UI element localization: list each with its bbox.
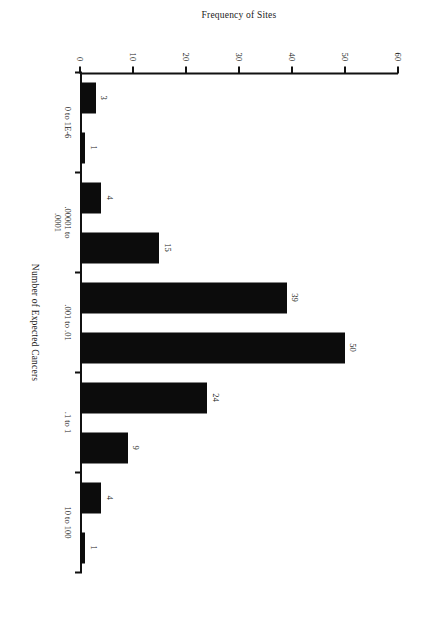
category-label: .1 to 1 bbox=[62, 411, 72, 433]
bar bbox=[80, 132, 85, 163]
value-tick-label: 60 bbox=[394, 52, 403, 61]
bar bbox=[80, 182, 101, 213]
category-label: 10 to 100 bbox=[62, 506, 72, 538]
value-tick-label: 10 bbox=[129, 52, 138, 61]
plot-area: 31415395024941 bbox=[80, 72, 398, 572]
bar-value-label: 1 bbox=[89, 545, 98, 549]
category-label: .001 to .01 bbox=[62, 304, 72, 340]
value-tick-label: 50 bbox=[341, 52, 350, 61]
bar bbox=[80, 332, 345, 363]
value-tick-label: 40 bbox=[288, 52, 297, 61]
bar-value-label: 9 bbox=[132, 445, 141, 449]
category-label: .00001 to .0001 bbox=[53, 206, 72, 238]
bar-value-label: 3 bbox=[100, 95, 109, 99]
x-axis-title: Number of Expected Cancers bbox=[30, 72, 40, 572]
bar-value-label: 24 bbox=[211, 393, 220, 402]
bar bbox=[80, 482, 101, 513]
value-tick-label: 0 bbox=[76, 57, 85, 61]
bar bbox=[80, 282, 287, 313]
bar-value-label: 1 bbox=[89, 145, 98, 149]
bar bbox=[80, 432, 128, 463]
bar-value-label: 15 bbox=[164, 243, 173, 252]
bar-value-label: 4 bbox=[105, 495, 114, 499]
bar bbox=[80, 382, 207, 413]
bar bbox=[80, 532, 85, 563]
value-tick-label: 20 bbox=[182, 52, 191, 61]
bar-value-label: 4 bbox=[105, 195, 114, 199]
bar bbox=[80, 82, 96, 113]
y-axis-title: Frequency of Sites bbox=[202, 9, 277, 19]
bar-value-label: 39 bbox=[291, 293, 300, 302]
rotated-chart-canvas: 0102030405060 31415395024941 0 to 1E-6.0… bbox=[0, 0, 432, 637]
bar bbox=[80, 232, 160, 263]
category-label: 0 to 1E-6 bbox=[62, 106, 72, 138]
value-tick-label: 30 bbox=[235, 52, 244, 61]
bar-chart: 0102030405060 31415395024941 0 to 1E-6.0… bbox=[0, 0, 432, 637]
chart-page: 0102030405060 31415395024941 0 to 1E-6.0… bbox=[0, 0, 432, 637]
bar-value-label: 50 bbox=[349, 343, 358, 352]
